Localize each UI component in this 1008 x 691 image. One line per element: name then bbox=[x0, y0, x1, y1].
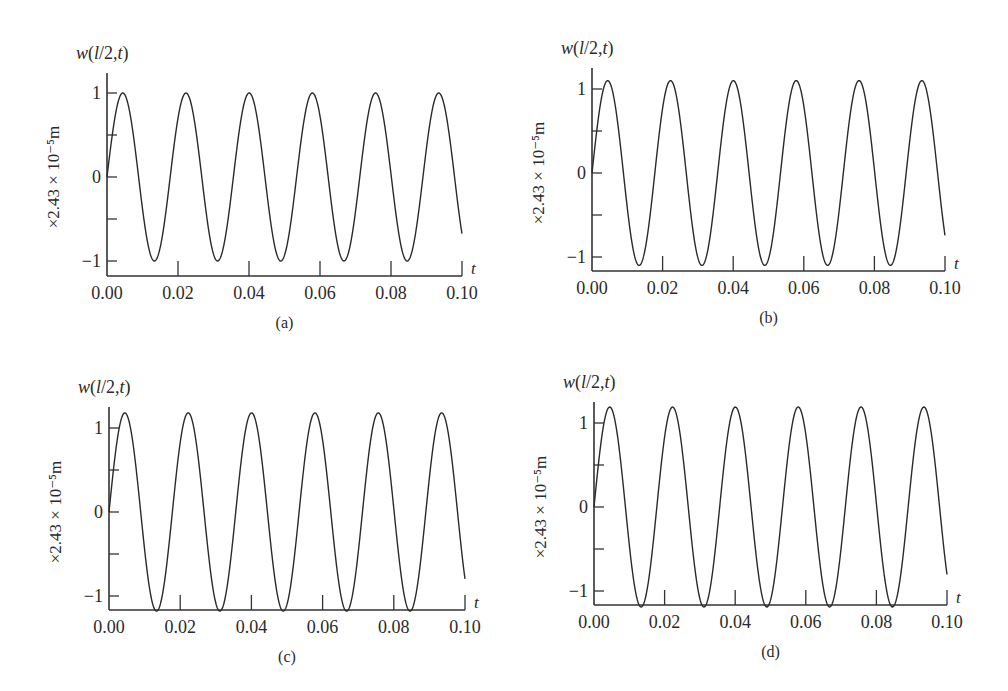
x-axis-label: t bbox=[954, 254, 960, 273]
x-tick-label: 0.06 bbox=[307, 617, 339, 637]
y-tick-label: 0 bbox=[577, 163, 586, 183]
figure: −1010.000.020.040.060.080.10tw(l/2,t)×2.… bbox=[0, 0, 1008, 691]
x-tick-label: 0.02 bbox=[649, 612, 681, 632]
y-axis-title: w(l/2,t) bbox=[563, 372, 616, 393]
x-tick-label: 0.10 bbox=[931, 612, 963, 632]
x-tick-label: 0.00 bbox=[578, 612, 610, 632]
x-tick-label: 0.04 bbox=[236, 617, 268, 637]
displacement-curve bbox=[109, 413, 465, 611]
panel-a: −1010.000.020.040.060.080.10tw(l/2,t)×2.… bbox=[44, 43, 478, 332]
x-tick-label: 0.04 bbox=[233, 283, 265, 303]
x-axis-label: t bbox=[471, 259, 477, 278]
displacement-curve bbox=[107, 93, 462, 261]
x-tick-label: 0.08 bbox=[859, 278, 891, 298]
y-tick-label: 1 bbox=[92, 83, 101, 103]
y-axis-scale-label: ×2.43 × 10⁻⁵m bbox=[531, 456, 550, 559]
x-tick-label: 0.04 bbox=[717, 278, 749, 298]
displacement-curve bbox=[594, 407, 947, 607]
y-tick-label: −1 bbox=[567, 247, 586, 267]
x-tick-label: 0.02 bbox=[164, 617, 196, 637]
y-axis-scale-label: ×2.43 × 10⁻⁵m bbox=[44, 126, 63, 229]
y-tick-label: 0 bbox=[94, 502, 103, 522]
y-tick-label: 1 bbox=[577, 79, 586, 99]
x-tick-label: 0.00 bbox=[576, 278, 608, 298]
x-tick-label: 0.00 bbox=[91, 283, 123, 303]
displacement-curve bbox=[592, 81, 945, 266]
x-tick-label: 0.08 bbox=[378, 617, 410, 637]
panel-label: (a) bbox=[276, 314, 294, 332]
x-tick-label: 0.04 bbox=[719, 612, 751, 632]
panel-c: −1010.000.020.040.060.080.10tw(l/2,t)×2.… bbox=[46, 377, 481, 666]
x-tick-label: 0.02 bbox=[162, 283, 194, 303]
y-tick-label: 1 bbox=[579, 413, 588, 433]
x-axis-label: t bbox=[474, 593, 480, 612]
y-tick-label: −1 bbox=[569, 581, 588, 601]
y-axis-title: w(l/2,t) bbox=[561, 38, 614, 59]
y-tick-label: −1 bbox=[82, 251, 101, 271]
panel-label: (b) bbox=[759, 309, 778, 327]
panel-b: −1010.000.020.040.060.080.10tw(l/2,t)×2.… bbox=[529, 38, 961, 327]
y-axis-title: w(l/2,t) bbox=[78, 377, 131, 398]
x-tick-label: 0.10 bbox=[929, 278, 961, 298]
x-tick-label: 0.10 bbox=[446, 283, 478, 303]
y-axis-scale-label: ×2.43 × 10⁻⁵m bbox=[46, 461, 65, 564]
y-tick-label: 0 bbox=[579, 497, 588, 517]
y-tick-label: −1 bbox=[84, 586, 103, 606]
x-tick-label: 0.06 bbox=[788, 278, 820, 298]
x-tick-label: 0.06 bbox=[304, 283, 336, 303]
y-axis-scale-label: ×2.43 × 10⁻⁵m bbox=[529, 122, 548, 225]
y-axis-title: w(l/2,t) bbox=[76, 43, 129, 64]
panel-d: −1010.000.020.040.060.080.10tw(l/2,t)×2.… bbox=[531, 372, 963, 661]
x-tick-label: 0.02 bbox=[647, 278, 679, 298]
x-tick-label: 0.10 bbox=[449, 617, 481, 637]
x-tick-label: 0.06 bbox=[790, 612, 822, 632]
x-tick-label: 0.08 bbox=[375, 283, 407, 303]
y-tick-label: 1 bbox=[94, 418, 103, 438]
y-tick-label: 0 bbox=[92, 167, 101, 187]
panel-label: (c) bbox=[278, 648, 296, 666]
x-axis-label: t bbox=[956, 588, 962, 607]
x-tick-label: 0.08 bbox=[861, 612, 893, 632]
x-tick-label: 0.00 bbox=[93, 617, 125, 637]
panel-label: (d) bbox=[761, 643, 780, 661]
